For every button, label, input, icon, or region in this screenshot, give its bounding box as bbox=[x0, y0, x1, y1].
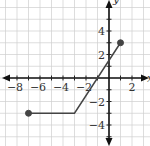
grid bbox=[0, 0, 150, 146]
piecewise-graph: −8−6−4−2242−2−4xy bbox=[0, 0, 150, 146]
y-tick-label: 2 bbox=[98, 49, 105, 62]
x-tick-label: −2 bbox=[76, 81, 92, 94]
y-tick-label: −2 bbox=[89, 96, 105, 109]
y-axis-up-arrow-icon bbox=[106, 0, 113, 8]
y-tick-label: −4 bbox=[89, 119, 105, 132]
endpoint-dot bbox=[118, 40, 124, 46]
y-axis-down-arrow-icon bbox=[106, 138, 113, 146]
x-tick-label: −4 bbox=[53, 81, 69, 94]
x-tick-label: −8 bbox=[7, 81, 23, 94]
x-axis-label: x bbox=[147, 72, 150, 85]
axes bbox=[2, 0, 149, 146]
y-tick-label: 4 bbox=[98, 25, 105, 38]
y-axis-label: y bbox=[112, 0, 120, 6]
endpoint-dot bbox=[26, 110, 32, 116]
x-tick-label: 2 bbox=[129, 81, 136, 94]
x-tick-label: −6 bbox=[30, 81, 46, 94]
